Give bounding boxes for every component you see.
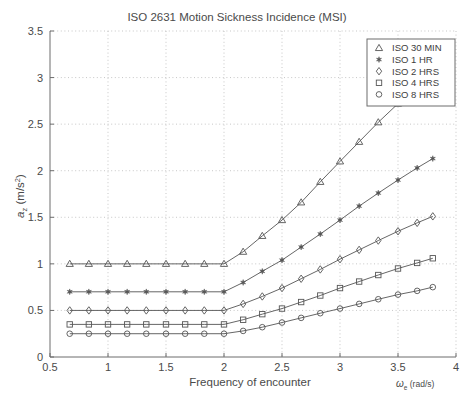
legend-label-iso-2-hrs: ISO 2 HRS — [392, 66, 439, 77]
y-tick-label: 1 — [37, 258, 43, 270]
x-tick-label: 4 — [453, 361, 459, 373]
legend-label-iso-30-min: ISO 30 MIN — [392, 42, 442, 53]
y-tick-label: 2.5 — [28, 118, 43, 130]
x-tick-label: 2.5 — [274, 361, 289, 373]
y-tick-label: 3.5 — [28, 25, 43, 37]
chart-figure: 0.511.522.533.5400.511.522.533.5 ISO 30 … — [0, 0, 475, 408]
x-axis-unit-label: ωe (rad/s) — [396, 378, 435, 391]
x-tick-label: 1 — [105, 361, 111, 373]
y-tick-label: 3 — [37, 72, 43, 84]
x-tick-label: 3.5 — [390, 361, 405, 373]
legend-label-iso-1-hr: ISO 1 HR — [392, 54, 433, 65]
legend-label-iso-8-hrs: ISO 8 HRS — [392, 89, 439, 100]
motion-sickness-incidence-chart: 0.511.522.533.5400.511.522.533.5 ISO 30 … — [0, 0, 475, 408]
y-tick-label: 2 — [37, 165, 43, 177]
y-tick-label: 0 — [37, 351, 43, 363]
chart-title: ISO 2631 Motion Sickness Incidence (MSI) — [127, 11, 346, 23]
x-tick-label: 0.5 — [42, 361, 57, 373]
y-tick-label: 0.5 — [28, 304, 43, 316]
legend-label-iso-4-hrs: ISO 4 HRS — [392, 77, 439, 88]
y-tick-label: 1.5 — [28, 211, 43, 223]
x-axis-label: Frequency of encounter — [189, 376, 311, 388]
x-tick-label: 2 — [221, 361, 227, 373]
chart-legend: ISO 30 MINISO 1 HRISO 2 HRSISO 4 HRSISO … — [367, 39, 455, 106]
x-tick-label: 1.5 — [158, 361, 173, 373]
x-tick-label: 3 — [337, 361, 343, 373]
